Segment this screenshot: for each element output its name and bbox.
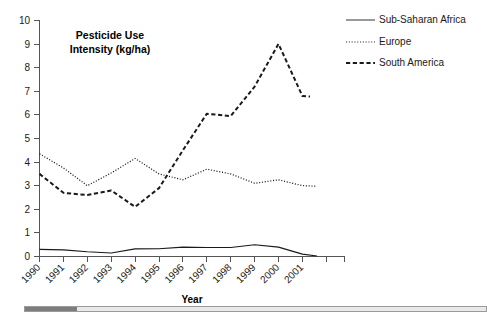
horizontal-scrollbar[interactable] <box>24 306 487 312</box>
y-tick-label-10: 10 <box>19 15 31 26</box>
x-tick-label-1995: 1995 <box>138 261 162 285</box>
legend-label-sub-saharan-africa: Sub-Saharan Africa <box>379 14 466 25</box>
legend-item-south-america[interactable]: South America <box>346 57 444 68</box>
legend: Sub-Saharan Africa Europe South America <box>346 14 466 68</box>
x-tick-label-1993: 1993 <box>91 261 115 285</box>
x-tick-label-1997: 1997 <box>186 261 210 285</box>
y-tick-label-7: 7 <box>24 86 30 97</box>
series-line-sub-saharan-africa <box>40 245 318 256</box>
plot-title-line-2: Intensity (kg/ha) <box>70 43 151 55</box>
series-group <box>40 44 318 256</box>
x-tick-label-1996: 1996 <box>162 261 186 285</box>
x-axis-ticks: 1990 1991 1992 1993 1994 1995 1996 1997 … <box>19 257 345 286</box>
pesticide-use-line-chart: 10 9 8 7 6 5 4 3 2 1 0 <box>0 0 487 316</box>
x-axis-title: Year <box>181 294 202 305</box>
y-tick-label-3: 3 <box>24 180 30 191</box>
plot-title-line-1: Pesticide Use <box>76 29 144 41</box>
axes <box>40 20 346 257</box>
x-tick-label-2000: 2000 <box>258 261 282 285</box>
plot-title: Pesticide Use Intensity (kg/ha) <box>70 29 151 55</box>
y-tick-label-1: 1 <box>24 227 30 238</box>
y-axis-ticks: 10 9 8 7 6 5 4 3 2 1 0 <box>19 15 40 262</box>
x-tick-label-1992: 1992 <box>67 261 91 285</box>
legend-item-europe[interactable]: Europe <box>346 36 412 47</box>
legend-label-south-america: South America <box>379 57 444 68</box>
x-tick-label-1990: 1990 <box>19 261 43 285</box>
x-tick-label-1991: 1991 <box>43 261 67 285</box>
scrollbar-thumb[interactable] <box>25 307 77 311</box>
y-tick-label-2: 2 <box>24 204 30 215</box>
legend-item-sub-saharan-africa[interactable]: Sub-Saharan Africa <box>346 14 466 25</box>
x-tick-label-1998: 1998 <box>210 261 234 285</box>
y-tick-label-5: 5 <box>24 133 30 144</box>
x-tick-label-2001: 2001 <box>282 261 306 285</box>
y-tick-label-4: 4 <box>24 157 30 168</box>
legend-label-europe: Europe <box>379 36 412 47</box>
y-tick-label-0: 0 <box>24 251 30 262</box>
y-tick-label-8: 8 <box>24 62 30 73</box>
y-tick-label-6: 6 <box>24 109 30 120</box>
series-line-south-america <box>40 44 311 207</box>
chart-figure: 10 9 8 7 6 5 4 3 2 1 0 <box>0 0 487 316</box>
y-tick-label-9: 9 <box>24 39 30 50</box>
x-tick-label-1994: 1994 <box>115 261 139 285</box>
x-tick-label-1999: 1999 <box>234 261 258 285</box>
